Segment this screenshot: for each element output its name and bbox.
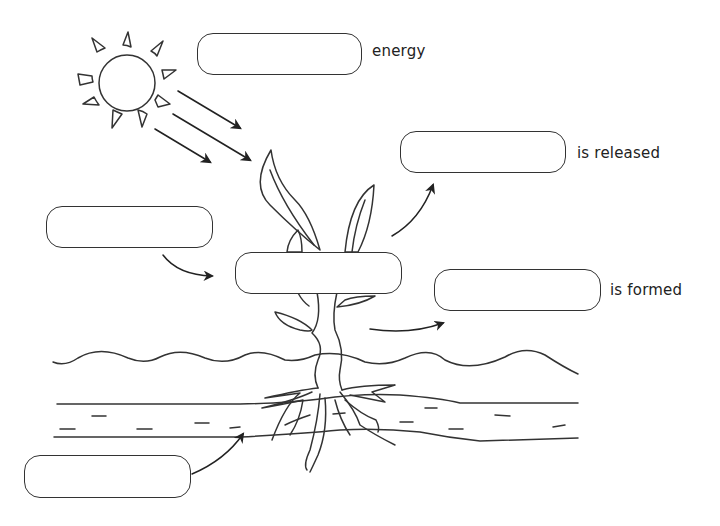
water-dashes bbox=[60, 408, 565, 429]
energy-label: energy bbox=[372, 42, 425, 60]
formed-label: is formed bbox=[610, 281, 682, 299]
sun-icon bbox=[78, 32, 176, 128]
light-energy-box[interactable] bbox=[197, 33, 362, 75]
light-ray-arrows bbox=[155, 91, 250, 162]
arrow-formed bbox=[370, 323, 443, 331]
water-box[interactable] bbox=[24, 455, 191, 498]
arrow-to-process bbox=[163, 255, 212, 276]
water-layer-top bbox=[57, 395, 578, 405]
released-label: is released bbox=[577, 144, 660, 162]
formed-product-box[interactable] bbox=[434, 269, 601, 311]
input-gas-box[interactable] bbox=[46, 206, 213, 248]
arrow-released bbox=[392, 185, 433, 236]
process-box[interactable] bbox=[235, 252, 402, 294]
arrow-water bbox=[192, 434, 243, 474]
plant-leaves bbox=[260, 150, 375, 331]
released-gas-box[interactable] bbox=[400, 131, 566, 173]
water-layer-bottom bbox=[54, 429, 578, 441]
